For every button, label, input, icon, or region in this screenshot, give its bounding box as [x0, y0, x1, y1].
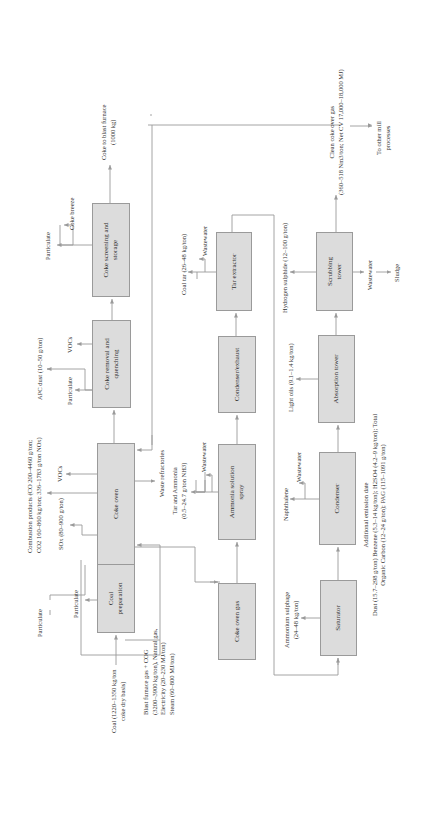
coal-input-line1: Coal (1220–1350 kg/ton	[110, 669, 119, 733]
box-scrubbing-tower: Scrubbing tower	[316, 232, 353, 311]
box-label: Condenser	[333, 484, 342, 514]
tar-ammonia-line2: (0.5–24.7 g/ton NH3)	[180, 463, 189, 519]
coke-output-line1: Coke to blast furnace	[100, 105, 109, 160]
box-label: Coke oven gas	[233, 601, 242, 642]
label-particulate-screen: Particulate	[44, 232, 53, 260]
box-absorption-tower: Absorption tower	[318, 335, 355, 423]
box-condenser: Condenser	[319, 452, 356, 545]
label-coke-breeze: Coke breeze	[68, 198, 77, 230]
label-wastewater-scrubbing: Wastewater	[366, 260, 375, 290]
label-wastewater-tar: Wastewater	[201, 226, 210, 256]
label-coal-input: Coal (1220–1350 kg/ton coke dry basis)	[110, 669, 127, 733]
label-vocs-oven: VOCs	[56, 466, 65, 482]
additional-emission-data: Additional emission date Dust (15.7–298 …	[362, 385, 388, 645]
fuel-input-line1: Blast furnace gas + COG	[142, 629, 151, 715]
box-coal-preparation: Coal preparation	[97, 564, 135, 633]
box-saturator: Saturator	[320, 580, 357, 656]
label-tar-ammonia: Tar and Ammonia (0.5–24.7 g/ton NH3)	[171, 463, 188, 519]
box-label: Ammonia solution spray	[228, 464, 246, 520]
additional-line1: Dust (15.7–298 g/ton) Benzene (5.3–14 kg…	[371, 385, 380, 645]
label-apc-dust: APC dust (10–50 g/ton)	[36, 338, 45, 400]
box-label: Coke screening and storage	[102, 222, 120, 278]
box-coke-oven-gas: Coke oven gas	[218, 583, 256, 660]
label-naphthalene: Naphthalene	[282, 488, 291, 521]
connector-lines	[0, 0, 424, 815]
box-ammonia-spray: Ammonia solution spray	[218, 444, 256, 540]
label-to-other-mill: To other mill processes	[375, 121, 392, 155]
box-coke-screening: Coke screening and storage	[92, 203, 130, 297]
box-label: Tar extractor	[230, 254, 239, 290]
tar-ammonia-line1: Tar and Ammonia	[171, 463, 180, 519]
label-fuel-input: Blast furnace gas + COG (3200–3900 kg/to…	[142, 629, 176, 715]
label-combustion-products: Combustion products (CO 200–4460 g/ton; …	[26, 437, 43, 553]
box-tar-extractor: Tar extractor	[216, 232, 252, 311]
combustion-line1: Combustion products (CO 200–4460 g/ton;	[26, 437, 35, 553]
label-clean-coke-oven-gas: Clean coke over gas (360–518 Nm3/ton; Ne…	[328, 69, 345, 195]
clean-gas-line1: Clean coke over gas	[328, 69, 337, 195]
fuel-input-line2: (3200–3900 kg/ton), Natural gas,	[151, 629, 160, 715]
box-condenser-exhaust: Condenser/exhaust	[218, 336, 256, 413]
mill-line2: processes	[384, 121, 393, 155]
fuel-input-line3: Electricity (20–230 MJ/ton)	[159, 629, 168, 715]
label-particulate-coke-oven: Particulate	[36, 609, 45, 637]
box-label: Condenser/exhaust	[233, 348, 242, 401]
label-sox: SOx (80–900 g/ton)	[57, 498, 66, 550]
coal-input-line2: coke dry basis)	[119, 669, 128, 733]
box-label: Saturator	[334, 605, 343, 631]
ammonium-sulphate-line1: Ammonium sulphage	[283, 592, 292, 648]
label-particulate-coal-prep: Particulate	[72, 590, 81, 618]
fuel-input-line4: Steam (60–800 MJ/ton)	[168, 629, 177, 715]
label-coke-to-blast-furnace: Coke to blast furnace (1000 kg)	[100, 105, 117, 160]
additional-title: Additional emission date	[362, 385, 371, 645]
mill-line1: To other mill	[375, 121, 384, 155]
label-hydrogen-sulphide: Hydrogen sulphide (12–100 g/ton)	[281, 223, 290, 313]
box-label: Scrubbing tower	[326, 255, 344, 289]
label-waste-refractories: Waste refractories	[158, 450, 167, 497]
ammonium-sulphate-line2: (24–48 kg/ton)	[292, 592, 301, 648]
label-sludge: Sludge	[393, 264, 402, 282]
box-label: Coal preparation	[107, 581, 125, 617]
label-particulate-quench: Particulate	[66, 377, 75, 405]
box-coke-oven: Coke oven	[97, 443, 135, 565]
process-flow-diagram: Coal preparation Coke oven Coke removal …	[0, 0, 424, 815]
box-label: Coke oven	[112, 489, 121, 519]
label-wastewater-condenser: Wastewater	[295, 452, 304, 482]
label-wastewater-ammonia: Wastewater	[200, 442, 209, 472]
additional-line2: Organic Carbon (12–24 g/ton); PAG (115–1…	[379, 385, 388, 645]
combustion-line2: CO2 160–860 kg/ton; 336–1783 g/ton NOx)	[35, 437, 44, 553]
label-light-oils: Light oils (9.1–1.4 kg/ton)	[287, 343, 296, 412]
label-vocs-quench: VOCs	[66, 337, 75, 353]
label-coal-tar: Coal tar (26–48 kg/ton)	[180, 234, 189, 295]
clean-gas-line2: (360–518 Nm3/ton; Net CV 17,000–18,000 M…	[337, 69, 346, 195]
coke-output-line2: (1000 kg)	[109, 105, 118, 160]
box-label: Coke removal and quenching	[103, 333, 121, 395]
box-coke-removal: Coke removal and quenching	[92, 320, 131, 408]
label-ammonium-sulphate: Ammonium sulphage (24–48 kg/ton)	[283, 592, 300, 648]
box-label: Absorption tower	[332, 354, 341, 403]
